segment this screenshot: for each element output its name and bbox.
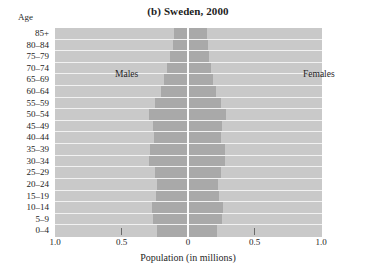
x-axis-tick-label: 1.0 bbox=[49, 237, 60, 247]
bar-female bbox=[188, 167, 221, 178]
y-axis-tick-label: 65–69 bbox=[0, 74, 52, 86]
plot-area: Males Females bbox=[55, 28, 322, 237]
bar-male bbox=[174, 28, 188, 39]
population-pyramid-figure: (b) Sweden, 2000 Age 85+80–8475–7970–746… bbox=[0, 0, 376, 279]
x-axis-tick-label: 1.0 bbox=[315, 237, 326, 247]
bar-male bbox=[167, 63, 188, 74]
bar-male bbox=[150, 144, 188, 155]
bar-female bbox=[188, 63, 211, 74]
bar-female bbox=[188, 225, 217, 237]
y-axis-tick-label: 5–9 bbox=[0, 214, 52, 226]
y-axis-tick-label: 70–74 bbox=[0, 63, 52, 75]
x-axis-tick-mark bbox=[254, 228, 255, 235]
bar-female bbox=[188, 86, 216, 97]
bar-female bbox=[188, 121, 222, 132]
bar-female bbox=[188, 214, 222, 225]
x-axis-tick-label: 0.5 bbox=[116, 237, 127, 247]
y-axis-tick-label: 55–59 bbox=[0, 98, 52, 110]
y-axis-tick-label: 85+ bbox=[0, 28, 52, 40]
bar-female bbox=[188, 156, 225, 167]
bar-male bbox=[170, 51, 188, 62]
bar-male bbox=[153, 121, 188, 132]
x-axis-title: Population (in millions) bbox=[0, 252, 376, 263]
bar-male bbox=[155, 98, 188, 109]
bar-male bbox=[154, 132, 188, 143]
y-axis-tick-label: 80–84 bbox=[0, 40, 52, 52]
bar-female bbox=[188, 132, 221, 143]
x-axis-tick-label: 0.5 bbox=[249, 237, 260, 247]
y-axis-tick-label: 10–14 bbox=[0, 202, 52, 214]
bar-male bbox=[149, 109, 188, 120]
chart-title: (b) Sweden, 2000 bbox=[0, 5, 376, 17]
bar-female bbox=[188, 191, 219, 202]
y-axis-tick-labels: 85+80–8475–7970–7465–6960–6455–5950–5445… bbox=[0, 28, 52, 237]
y-axis-tick-label: 30–34 bbox=[0, 156, 52, 168]
y-axis-tick-label: 60–64 bbox=[0, 86, 52, 98]
y-axis-title: Age bbox=[18, 12, 33, 22]
bar-male bbox=[149, 156, 188, 167]
y-axis-tick-label: 15–19 bbox=[0, 191, 52, 203]
bar-male bbox=[157, 225, 188, 237]
y-axis-tick-label: 50–54 bbox=[0, 109, 52, 121]
y-axis-tick-label: 25–29 bbox=[0, 167, 52, 179]
y-axis-tick-label: 45–49 bbox=[0, 121, 52, 133]
y-axis-tick-label: 0–4 bbox=[0, 225, 52, 237]
x-axis-tick-label: 0 bbox=[186, 237, 191, 247]
bar-male bbox=[157, 179, 188, 190]
bar-female bbox=[188, 179, 218, 190]
bar-female bbox=[188, 202, 223, 213]
bar-male bbox=[152, 202, 188, 213]
bar-male bbox=[156, 191, 188, 202]
bar-female bbox=[188, 98, 221, 109]
center-axis-line bbox=[187, 28, 189, 237]
bar-male bbox=[173, 40, 188, 51]
y-axis-tick-label: 75–79 bbox=[0, 51, 52, 63]
bar-female bbox=[188, 28, 207, 39]
bar-male bbox=[153, 214, 188, 225]
bar-female bbox=[188, 40, 208, 51]
legend-males: Males bbox=[115, 69, 138, 79]
bar-female bbox=[188, 109, 226, 120]
bar-male bbox=[164, 74, 188, 85]
y-axis-tick-label: 40–44 bbox=[0, 132, 52, 144]
legend-females: Females bbox=[303, 69, 335, 79]
y-axis-tick-label: 35–39 bbox=[0, 144, 52, 156]
bar-female bbox=[188, 144, 225, 155]
bar-female bbox=[188, 51, 209, 62]
bar-male bbox=[155, 167, 188, 178]
y-axis-tick-label: 20–24 bbox=[0, 179, 52, 191]
x-axis-tick-mark bbox=[121, 228, 122, 235]
x-axis: 1.00.500.51.0 bbox=[55, 237, 322, 251]
bar-female bbox=[188, 74, 213, 85]
bar-male bbox=[161, 86, 188, 97]
